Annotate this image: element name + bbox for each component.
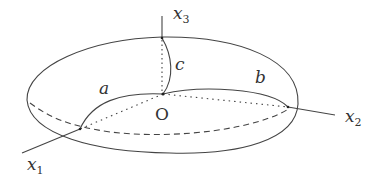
x2-axis xyxy=(288,107,335,115)
arc-c xyxy=(162,38,171,94)
x1-intercept-point xyxy=(79,128,82,131)
ellipsoid-diagram: x3 c a b O x2 x1 xyxy=(0,0,381,184)
arc-b xyxy=(163,89,288,107)
label-x2: x2 xyxy=(345,106,362,129)
origin-point xyxy=(162,93,165,96)
label-b: b xyxy=(255,67,266,87)
x1-axis xyxy=(22,129,80,153)
x2-intercept-point xyxy=(287,106,290,109)
label-origin: O xyxy=(155,104,169,124)
label-a: a xyxy=(99,78,109,98)
label-c: c xyxy=(175,54,185,74)
x3-intercept-point xyxy=(161,37,164,40)
label-x3: x3 xyxy=(173,3,190,26)
label-x1: x1 xyxy=(27,154,44,177)
